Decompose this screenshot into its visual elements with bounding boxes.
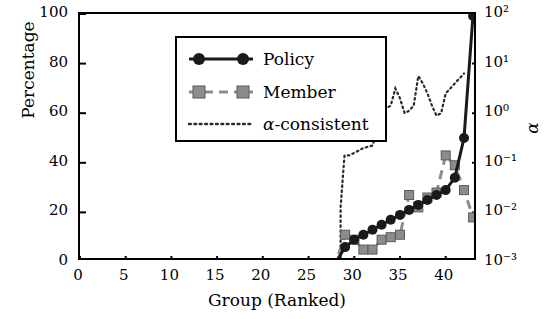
x-tick-40: 40 <box>434 266 453 284</box>
legend-item-policy: Policy <box>177 42 385 76</box>
legend: Policy Member α-consistent <box>175 36 387 142</box>
chart-container: Percentage α Group (Ranked) 0 20 40 60 8… <box>0 0 553 319</box>
legend-item-member: Member <box>177 75 385 109</box>
y-tick-right-1e-3: 10⁻³ <box>484 251 532 269</box>
legend-label-alpha-consistent: α-consistent <box>263 107 369 141</box>
y-tick-left-80: 80 <box>24 53 68 71</box>
legend-swatch-alpha-consistent <box>185 107 257 141</box>
x-tick-25: 25 <box>297 266 316 284</box>
x-tick-15: 15 <box>206 266 225 284</box>
legend-label-member: Member <box>263 75 336 109</box>
y-tick-left-40: 40 <box>24 152 68 170</box>
legend-label-alpha-suffix: -consistent <box>274 114 368 134</box>
x-tick-20: 20 <box>251 266 270 284</box>
plot-area: Policy Member α-consistent <box>78 12 476 260</box>
y-tick-left-20: 20 <box>24 201 68 219</box>
legend-item-alpha-consistent: α-consistent <box>177 107 385 141</box>
y-tick-right-1e2: 10² <box>484 3 532 21</box>
x-tick-0: 0 <box>73 266 83 284</box>
x-axis-title: Group (Ranked) <box>78 290 476 310</box>
legend-swatch-member <box>185 75 257 109</box>
y-tick-left-0: 0 <box>24 251 68 269</box>
legend-label-policy: Policy <box>263 42 314 76</box>
y-tick-right-1e-1: 10⁻¹ <box>484 152 532 170</box>
x-tick-10: 10 <box>160 266 179 284</box>
x-tick-30: 30 <box>343 266 362 284</box>
y-tick-right-1e0: 10⁰ <box>484 102 532 120</box>
y-axis-right-title: α <box>522 68 542 188</box>
x-tick-35: 35 <box>388 266 407 284</box>
y-tick-left-60: 60 <box>24 102 68 120</box>
legend-label-alpha-symbol: α <box>263 114 274 134</box>
x-tick-5: 5 <box>119 266 129 284</box>
legend-swatch-policy <box>185 42 257 76</box>
y-tick-right-1e-2: 10⁻² <box>484 201 532 219</box>
y-tick-right-1e1: 10¹ <box>484 53 532 71</box>
y-axis-left-title: Percentage <box>18 0 38 150</box>
y-tick-left-100: 100 <box>24 3 68 21</box>
